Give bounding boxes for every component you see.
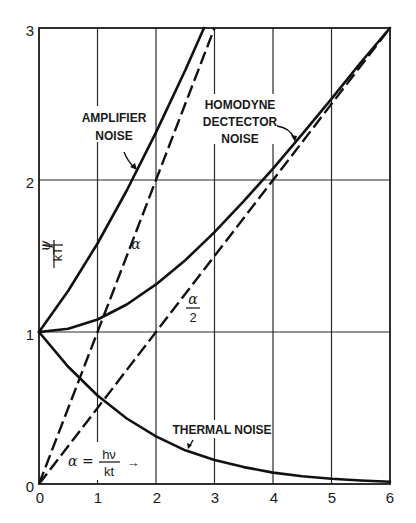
homodyne-label-line1: HOMODYNE — [205, 98, 276, 112]
alpha-label: α — [131, 236, 141, 252]
y-tick-2: 2 — [26, 174, 34, 191]
homodyne-label-line2: DECTECTOR — [203, 115, 278, 129]
y-tick-0: 0 — [26, 478, 34, 495]
x-formula-denominator: kt — [104, 464, 115, 479]
x-tick-1: 1 — [94, 489, 102, 506]
amplifier-label-line2: NOISE — [95, 129, 132, 143]
x-tick-6: 6 — [386, 489, 394, 506]
thermal-label: THERMAL NOISE — [172, 423, 271, 437]
noise-chart: 3 2 1 0 0 1 2 3 4 5 6 AMPLIFIER NOISE HO… — [0, 0, 416, 523]
y-tick-1: 1 — [26, 326, 34, 343]
alpha-half-denominator: 2 — [189, 310, 196, 325]
y-axis-ticks: 3 2 1 0 — [26, 22, 34, 495]
x-tick-2: 2 — [153, 489, 161, 506]
x-axis-ticks: 0 1 2 3 4 5 6 — [36, 489, 394, 506]
y-label-denominator-group: kT — [50, 247, 65, 262]
x-formula-arrow-icon: → — [127, 455, 140, 470]
x-tick-0: 0 — [36, 489, 44, 506]
y-tick-3: 3 — [26, 22, 34, 39]
homodyne-leader-arrow — [277, 126, 294, 138]
x-formula-numerator: hν — [102, 447, 116, 462]
x-tick-5: 5 — [328, 489, 336, 506]
homodyne-label-line3: NOISE — [221, 132, 258, 146]
alpha-half-numerator: α — [188, 291, 198, 307]
x-formula-lhs: α = — [68, 453, 94, 469]
amplifier-label-line1: AMPLIFIER — [82, 111, 147, 125]
y-label-denominator: kT — [50, 247, 65, 262]
x-tick-4: 4 — [270, 489, 278, 506]
x-tick-3: 3 — [211, 489, 219, 506]
